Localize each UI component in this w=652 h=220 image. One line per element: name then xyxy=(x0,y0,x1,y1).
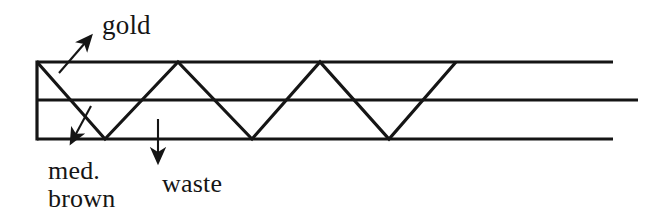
label-waste: waste xyxy=(162,171,222,198)
label-med-brown-line1: med. xyxy=(48,156,100,185)
label-med-brown: med.brown xyxy=(48,158,115,212)
diagram-canvas: gold med.brown waste xyxy=(0,0,652,220)
label-gold: gold xyxy=(102,12,151,40)
label-med-brown-line2: brown xyxy=(48,186,115,213)
gold-arrow-icon xyxy=(59,36,91,73)
